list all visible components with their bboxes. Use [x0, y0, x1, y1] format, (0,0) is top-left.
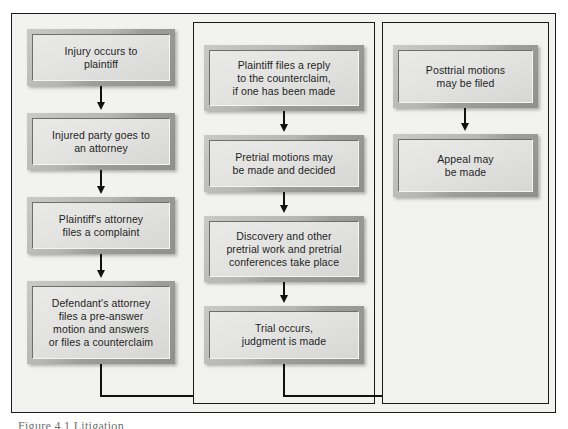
node-inner-surface: Plaintiff's attorney files a complaint	[32, 202, 170, 249]
pretrial-motions-node[interactable]: Pretrial motions may be made and decided	[204, 135, 364, 192]
flowchart-canvas: Injury occurs to plaintiff Injured party…	[0, 0, 568, 429]
node-inner-surface: Defendant's attorney files a pre-answer …	[32, 286, 170, 359]
defendant-response-node[interactable]: Defendant's attorney files a pre-answer …	[27, 281, 175, 364]
node-inner-surface: Plaintiff files a reply to the countercl…	[209, 50, 359, 106]
trial-node[interactable]: Trial occurs, judgment is made	[204, 306, 364, 364]
node-label: Discovery and other pretrial work and pr…	[222, 230, 345, 269]
elbow-segment-down	[100, 364, 102, 396]
node-inner-surface: Appeal may be made	[398, 139, 533, 192]
arrow-head-icon	[280, 124, 288, 132]
node-inner-surface: Posttrial motions may be filed	[398, 50, 533, 103]
party-to-attorney-node[interactable]: Injured party goes to an attorney	[27, 113, 175, 170]
complaint-filed-node[interactable]: Plaintiff's attorney files a complaint	[27, 197, 175, 254]
arrow-head-icon	[280, 205, 288, 213]
node-label: Plaintiff files a reply to the countercl…	[229, 59, 340, 98]
arrow-head-icon	[97, 270, 105, 278]
node-label: Appeal may be made	[433, 153, 497, 179]
arrow-head-icon	[97, 186, 105, 194]
node-label: Plaintiff's attorney files a complaint	[55, 213, 147, 239]
node-label: Injury occurs to plaintiff	[61, 45, 142, 71]
figure-caption: Figure 4.1 Litigation	[18, 419, 238, 429]
node-label: Defendant's attorney files a pre-answer …	[45, 297, 157, 349]
node-label: Posttrial motions may be filed	[422, 64, 509, 90]
arrow-head-icon	[280, 295, 288, 303]
appeal-node[interactable]: Appeal may be made	[393, 134, 538, 197]
arrow-head-icon	[97, 102, 105, 110]
posttrial-motions-node[interactable]: Posttrial motions may be filed	[393, 45, 538, 108]
node-inner-surface: Injured party goes to an attorney	[32, 118, 170, 165]
arrow-head-icon	[461, 123, 469, 131]
elbow-segment-down	[283, 364, 285, 396]
node-inner-surface: Injury occurs to plaintiff	[32, 34, 170, 81]
elbow-segment-right	[283, 395, 396, 397]
node-label: Injured party goes to an attorney	[48, 129, 154, 155]
discovery-node[interactable]: Discovery and other pretrial work and pr…	[204, 216, 364, 282]
node-inner-surface: Trial occurs, judgment is made	[209, 311, 359, 359]
node-label: Trial occurs, judgment is made	[238, 322, 330, 348]
node-inner-surface: Pretrial motions may be made and decided	[209, 140, 359, 187]
node-inner-surface: Discovery and other pretrial work and pr…	[209, 221, 359, 277]
node-label: Pretrial motions may be made and decided	[229, 151, 340, 177]
diagram-outer-frame: Injury occurs to plaintiff Injured party…	[11, 13, 556, 413]
injury-occurs-node[interactable]: Injury occurs to plaintiff	[27, 29, 175, 86]
reply-to-counterclaim-node[interactable]: Plaintiff files a reply to the countercl…	[204, 45, 364, 111]
